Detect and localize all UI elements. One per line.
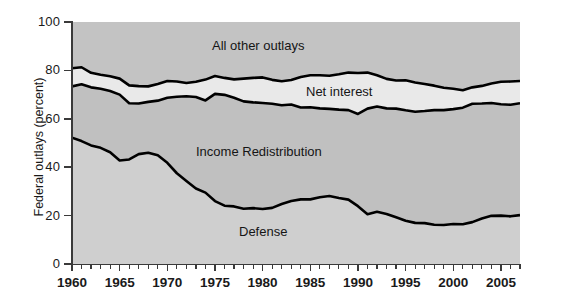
x-tick-1972: [186, 264, 187, 269]
x-tick-1975: [214, 264, 215, 271]
x-tick-1999: [443, 264, 444, 269]
y-tick-20: [64, 215, 72, 217]
x-tick-1997: [424, 264, 425, 269]
x-tick-1985: [310, 264, 311, 271]
x-tick-1982: [281, 264, 282, 269]
x-tick-1970: [167, 264, 168, 271]
x-tick-1967: [138, 264, 139, 269]
annotation-defense: Defense: [239, 224, 287, 239]
x-tick-label-1960: 1960: [49, 275, 95, 290]
x-tick-1992: [376, 264, 377, 269]
x-tick-label-2005: 2005: [478, 275, 524, 290]
y-tick-label-wrap: 100: [30, 14, 60, 28]
x-tick-1978: [243, 264, 244, 269]
y-axis-title: Federal outlays (percent): [32, 27, 46, 267]
x-tick-1991: [367, 264, 368, 269]
annotation-net-interest: Net interest: [306, 84, 372, 99]
plot-area: All other outlays Net interest Income Re…: [72, 22, 520, 264]
x-tick-1995: [405, 264, 406, 271]
x-tick-1983: [291, 264, 292, 269]
x-tick-2002: [472, 264, 473, 269]
x-tick-1968: [148, 264, 149, 269]
x-tick-1961: [81, 264, 82, 269]
x-tick-1979: [253, 264, 254, 269]
x-tick-label-1985: 1985: [287, 275, 333, 290]
x-tick-1981: [272, 264, 273, 269]
x-tick-1969: [157, 264, 158, 269]
x-tick-1987: [329, 264, 330, 269]
x-tick-1974: [205, 264, 206, 269]
y-tick-80: [64, 70, 72, 72]
x-tick-1989: [348, 264, 349, 269]
x-tick-label-1975: 1975: [192, 275, 238, 290]
x-tick-1998: [434, 264, 435, 269]
annotation-all-other-outlays: All other outlays: [212, 38, 305, 53]
x-tick-2006: [510, 264, 511, 269]
x-tick-1971: [176, 264, 177, 269]
x-tick-2005: [500, 264, 501, 271]
y-tick-60: [64, 118, 72, 120]
x-tick-2001: [462, 264, 463, 269]
x-tick-1993: [386, 264, 387, 269]
x-tick-2000: [453, 264, 454, 271]
x-tick-1965: [119, 264, 120, 271]
x-tick-label-2000: 2000: [430, 275, 476, 290]
chart-figure: All other outlays Net interest Income Re…: [0, 0, 561, 308]
x-tick-1994: [395, 264, 396, 269]
x-tick-label-1970: 1970: [144, 275, 190, 290]
x-tick-1960: [71, 264, 72, 271]
x-tick-1980: [262, 264, 263, 271]
x-tick-2004: [491, 264, 492, 269]
x-tick-1973: [195, 264, 196, 269]
x-tick-1990: [357, 264, 358, 271]
annotation-income-redistribution: Income Redistribution: [196, 144, 322, 159]
x-tick-1964: [110, 264, 111, 269]
x-tick-2003: [481, 264, 482, 269]
x-tick-1966: [129, 264, 130, 269]
y-axis-line: [71, 21, 73, 265]
x-tick-label-1990: 1990: [335, 275, 381, 290]
x-tick-1986: [319, 264, 320, 269]
x-tick-label-1980: 1980: [240, 275, 286, 290]
stacked-area-svg: [72, 22, 520, 264]
x-tick-1984: [300, 264, 301, 269]
x-tick-1976: [224, 264, 225, 269]
y-tick-100: [64, 21, 72, 23]
x-tick-1988: [338, 264, 339, 269]
x-tick-1977: [233, 264, 234, 269]
x-tick-2007: [519, 264, 520, 269]
x-tick-label-1965: 1965: [97, 275, 143, 290]
y-tick-40: [64, 166, 72, 168]
x-tick-1962: [90, 264, 91, 269]
x-tick-label-1995: 1995: [383, 275, 429, 290]
x-tick-1963: [100, 264, 101, 269]
x-tick-1996: [415, 264, 416, 269]
